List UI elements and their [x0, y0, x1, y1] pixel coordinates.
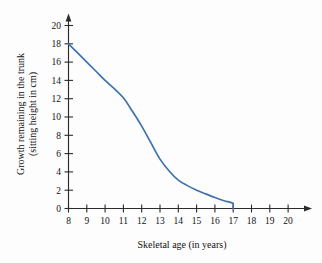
x-tick-label: 20: [283, 216, 293, 226]
x-tick-label: 8: [66, 216, 71, 226]
y-axis-title: Growth remaining in the trunk (sitting h…: [15, 53, 39, 175]
x-tick-label: 17: [228, 216, 238, 226]
y-tick-label: 16: [52, 57, 62, 67]
y-tick-label: 18: [52, 39, 62, 49]
x-tick-label: 10: [100, 216, 110, 226]
x-axis-tick-labels: 8 9 10 11 12 13 14 15 16 17 18 19 20: [66, 216, 293, 226]
y-axis-arrow-icon: [66, 14, 72, 22]
x-tick-label: 13: [155, 216, 165, 226]
x-tick-label: 18: [247, 216, 257, 226]
x-axis-arrow-icon: [304, 206, 312, 212]
chart-figure: 0 2 4 6 8 10 12 14 16 18 20: [0, 0, 322, 263]
y-axis-tick-labels: 0 2 4 6 8 10 12 14 16 18 20: [52, 21, 62, 214]
x-axis-title: Skeletal age (in years): [137, 239, 226, 251]
y-tick-label: 12: [52, 94, 62, 104]
x-tick-label: 15: [192, 216, 202, 226]
x-tick-label: 11: [119, 216, 128, 226]
x-tick-label: 19: [265, 216, 275, 226]
x-tick-label: 14: [174, 216, 184, 226]
x-tick-label: 16: [210, 216, 220, 226]
y-tick-label: 2: [56, 186, 61, 196]
y-tick-label: 10: [52, 112, 62, 122]
y-tick-label: 6: [56, 149, 61, 159]
y-axis-title-line2: (sitting height in cm): [27, 72, 39, 156]
y-tick-label: 4: [56, 167, 61, 177]
y-tick-label: 8: [56, 131, 61, 141]
x-tick-label: 12: [137, 216, 147, 226]
data-series-line: [69, 44, 234, 209]
y-tick-label: 14: [52, 76, 62, 86]
x-tick-label: 9: [84, 216, 89, 226]
y-tick-label: 0: [56, 204, 61, 214]
y-tick-label: 20: [52, 21, 62, 31]
y-axis-title-line1: Growth remaining in the trunk: [15, 53, 26, 175]
growth-remaining-line-chart: 0 2 4 6 8 10 12 14 16 18 20: [0, 0, 322, 263]
